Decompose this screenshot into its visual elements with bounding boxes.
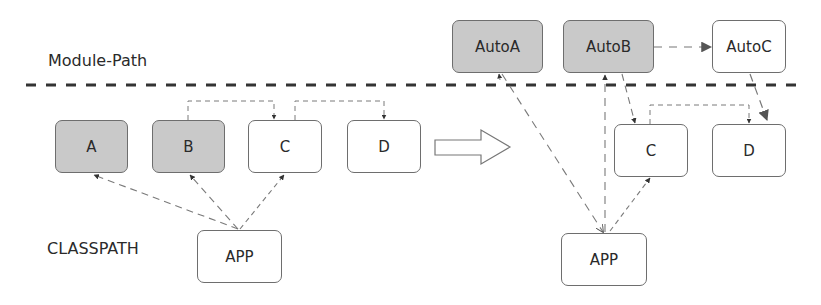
module-box-autob: AutoB — [563, 20, 654, 73]
module-box-autoc: AutoC — [712, 20, 786, 73]
connector-app-to-a — [94, 175, 238, 229]
module-migration-diagram: Module-Path CLASSPATH A B C D APP AutoA … — [0, 0, 821, 305]
connector-autoa-to-app — [502, 74, 603, 232]
connector-autoc-to-d — [750, 74, 767, 120]
app-box-after: APP — [561, 233, 647, 286]
connector-autob-to-c — [622, 74, 635, 123]
module-box-d: D — [347, 120, 421, 173]
module-path-label: Module-Path — [48, 51, 147, 70]
connector-autoa-arrowhead — [499, 74, 500, 80]
connector-b-to-c — [188, 101, 274, 120]
app-box-before: APP — [197, 230, 282, 283]
module-box-d-after: D — [712, 124, 786, 177]
module-box-a: A — [55, 120, 128, 173]
connector-app-to-c-right — [610, 178, 650, 231]
transition-arrow-icon — [435, 130, 510, 164]
module-box-c-after: C — [614, 124, 688, 177]
module-box-autoa: AutoA — [452, 20, 543, 73]
connector-c-to-d-right — [650, 105, 749, 124]
classpath-label: CLASSPATH — [47, 239, 139, 258]
module-box-b: B — [152, 120, 225, 173]
connector-app-to-c — [240, 175, 284, 229]
module-box-c: C — [248, 120, 322, 173]
connector-c-to-d — [295, 101, 384, 120]
connector-app-to-b — [190, 175, 238, 229]
